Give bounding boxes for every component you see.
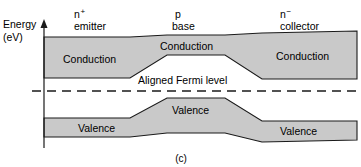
region-label-base-name: base	[172, 20, 195, 32]
conduction-label-base: Conduction	[160, 40, 213, 52]
conduction-label-collector: Conduction	[276, 50, 329, 62]
region-label-emitter-symbol: n	[74, 8, 80, 20]
energy-axis-arrowhead	[41, 19, 48, 28]
region-label-emitter-superscript: +	[81, 7, 86, 16]
conduction-label-emitter: Conduction	[63, 53, 116, 65]
valence-label-base: Valence	[172, 104, 209, 116]
figure-caption: (c)	[175, 153, 187, 164]
valence-label-emitter: Valence	[78, 122, 115, 134]
band-diagram-figure: Energy (eV) n + emitter p base n − colle…	[0, 0, 361, 167]
region-label-emitter-name: emitter	[74, 20, 107, 32]
region-label-collector-name: collector	[280, 20, 320, 32]
region-label-base-symbol: p	[175, 8, 181, 20]
aligned-fermi-level-label: Aligned Fermi level	[138, 74, 227, 86]
region-label-collector-superscript: −	[287, 7, 292, 16]
region-label-collector-symbol: n	[280, 8, 286, 20]
band-diagram-svg: Energy (eV) n + emitter p base n − colle…	[0, 0, 361, 167]
valence-label-collector: Valence	[280, 125, 317, 137]
energy-axis-label-line2: (eV)	[3, 31, 23, 43]
energy-axis-label-line1: Energy	[3, 18, 37, 30]
